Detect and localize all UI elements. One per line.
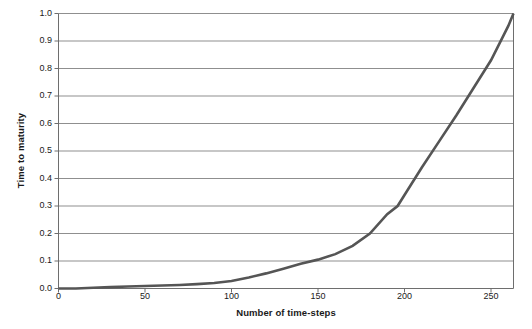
x-tick-label: 100	[212, 292, 252, 301]
y-tick-label: 0.4	[18, 174, 52, 183]
x-axis-label: Number of time-steps	[58, 307, 514, 318]
y-tick-label: 0.8	[18, 64, 52, 73]
y-tick-label: 0.3	[18, 201, 52, 210]
y-tick-label: 0.9	[18, 36, 52, 45]
gridlines	[59, 14, 514, 262]
x-tick-label: 150	[298, 292, 338, 301]
x-tick-label: 50	[125, 292, 165, 301]
x-tick-label: 250	[471, 292, 511, 301]
y-tick-label: 0.5	[18, 146, 52, 155]
y-tick-label: 1.0	[18, 9, 52, 18]
tick-marks	[55, 14, 492, 293]
chart-figure: Time to maturity Number of time-steps 0.…	[0, 0, 532, 329]
y-tick-label: 0.2	[18, 229, 52, 238]
x-tick-label: 200	[385, 292, 425, 301]
plot-canvas	[0, 0, 532, 329]
y-tick-label: 0.7	[18, 91, 52, 100]
x-tick-label: 0	[39, 292, 79, 301]
y-tick-label: 0.1	[18, 256, 52, 265]
y-tick-label: 0.6	[18, 119, 52, 128]
